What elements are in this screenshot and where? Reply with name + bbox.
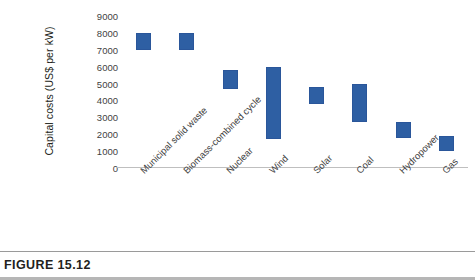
y-axis-tick-9000: 9000 xyxy=(78,11,118,22)
y-axis-tick-3000: 3000 xyxy=(78,112,118,123)
y-axis-tick-0: 0 xyxy=(78,163,118,174)
y-axis-tick-labels: 9000800070006000500040003000200010000 xyxy=(78,16,118,168)
bar-coal xyxy=(352,84,367,123)
y-axis-tick-2000: 2000 xyxy=(78,129,118,140)
y-axis-tick-8000: 8000 xyxy=(78,27,118,38)
y-axis-tick-5000: 5000 xyxy=(78,78,118,89)
bar-solar xyxy=(309,87,324,104)
x-axis-category-labels: Municipal solid wasteBiomass-combined cy… xyxy=(122,168,468,238)
y-axis-tick-1000: 1000 xyxy=(78,146,118,157)
chart-figure: Capital costs (US$ per kW) 9000800070006… xyxy=(0,0,475,238)
bar-gas xyxy=(439,136,454,151)
y-axis-tick-7000: 7000 xyxy=(78,44,118,55)
bar-biomass-combined-cycle xyxy=(179,33,194,50)
bar-municipal-solid-waste xyxy=(136,33,151,50)
figure-page: Capital costs (US$ per kW) 9000800070006… xyxy=(0,0,475,280)
figure-caption-block: FIGURE 15.12 xyxy=(0,251,475,280)
y-axis-tick-6000: 6000 xyxy=(78,61,118,72)
bar-wind xyxy=(266,67,281,140)
y-axis-title: Capital costs (US$ per kW) xyxy=(43,6,55,176)
figure-caption-label: FIGURE 15.12 xyxy=(0,252,475,277)
y-axis-tick-4000: 4000 xyxy=(78,95,118,106)
bar-nuclear xyxy=(223,70,238,89)
bar-hydropower xyxy=(396,122,411,137)
